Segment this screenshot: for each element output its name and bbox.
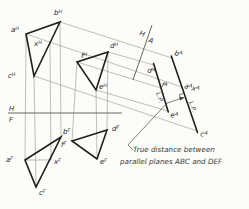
label-c-a: cA bbox=[200, 130, 209, 140]
projector-c-hf bbox=[34, 76, 36, 187]
descriptive-geometry-figure: aH bH cH xH dH eH fH aF bF cF xF dF eF f… bbox=[0, 0, 249, 209]
label-e-f: eF bbox=[100, 158, 107, 167]
label-f-a: fA bbox=[160, 81, 168, 91]
label-a-x-a: aAxA bbox=[183, 82, 200, 94]
label-lp-def: L.P. bbox=[155, 91, 165, 104]
figure-canvas: aH bH cH xH dH eH fH aF bF cF xF dF eF f… bbox=[0, 0, 249, 209]
label-c-h: cH bbox=[8, 72, 16, 81]
edge-view-abc-line bbox=[171, 56, 197, 133]
label-d-f: dF bbox=[112, 125, 119, 134]
label-c-f: cF bbox=[39, 189, 46, 198]
label-x-f: xF bbox=[53, 158, 61, 167]
projector-a-hf bbox=[25, 34, 26, 160]
label-a-f: aF bbox=[6, 156, 13, 165]
fold-hf-label-f: F bbox=[9, 116, 14, 124]
label-d-a: dA bbox=[146, 66, 156, 76]
fold-ha-label-h: H bbox=[138, 29, 146, 39]
projector-e-hf bbox=[96, 90, 97, 159]
projector-x-hf bbox=[50, 43, 51, 160]
triangle-abc-h-outline bbox=[26, 22, 60, 76]
triangle-abc-h-view bbox=[26, 22, 60, 76]
projector-b-hf bbox=[60, 22, 61, 137]
label-b-f: bF bbox=[63, 128, 70, 137]
label-f-f: fF bbox=[61, 141, 66, 150]
label-b-a: bA bbox=[173, 49, 183, 59]
label-a-h: aH bbox=[11, 26, 19, 35]
true-distance-arrowhead-icon bbox=[179, 97, 184, 100]
caption-line-1: True distance between bbox=[133, 145, 215, 154]
projector-d-aux bbox=[108, 52, 154, 65]
caption-line-2: parallel planes ABC and DEF bbox=[119, 157, 223, 166]
label-b-h: bH bbox=[54, 9, 62, 18]
projector-d-hf bbox=[107, 52, 108, 130]
fold-hf-label-h: H bbox=[9, 105, 15, 113]
projector-f-hf bbox=[72, 62, 77, 141]
label-e-a: eA bbox=[170, 111, 179, 121]
label-e-h: eH bbox=[99, 83, 107, 92]
projector-b-aux bbox=[60, 22, 172, 58]
caption-leader-line bbox=[128, 103, 167, 150]
triangle-def-f-view bbox=[72, 130, 107, 159]
projector-c-aux bbox=[34, 76, 197, 131]
triangle-def-f-outline bbox=[72, 130, 107, 159]
label-x-h: xH bbox=[33, 40, 42, 49]
label-d-h: dH bbox=[110, 42, 118, 51]
